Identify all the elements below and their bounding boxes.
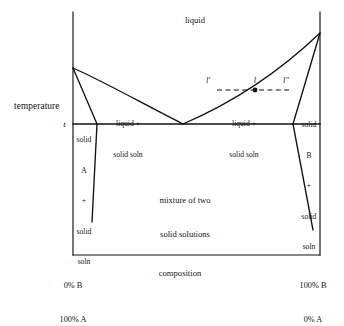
x-axis-right-end-label: 100% B 0% A: [284, 258, 342, 326]
x-axis-left-end-label: 0% B 100% A: [38, 258, 108, 326]
x-left-end-line2: 100% A: [38, 314, 108, 325]
left-solid-line3: +: [71, 196, 97, 206]
x-right-end-line1: 100% B: [284, 280, 342, 291]
region-label-left-liquid-solid: liquid + solid soln: [103, 99, 153, 180]
right-solid-line3: +: [296, 181, 322, 191]
right-liquid-solid-line1: liquid +: [218, 119, 270, 129]
left-solid-line4: solid: [71, 227, 97, 237]
x-left-end-line1: 0% B: [38, 280, 108, 291]
left-liquid-solid-line2: solid soln: [103, 150, 153, 160]
y-axis-tick-label: t: [60, 119, 69, 129]
composition-point-marker: [253, 88, 258, 93]
right-liquid-solid-line2: solid soln: [218, 150, 270, 160]
x-axis-label: composition: [140, 269, 220, 279]
region-label-right-solid: solid B + solid soln: [296, 100, 322, 273]
tie-line-label-left: l′: [203, 76, 213, 86]
tie-line-group: [217, 88, 289, 93]
y-axis-label: temperature: [14, 101, 72, 112]
right-solid-line4: solid: [296, 212, 322, 222]
right-solid-line1: solid: [296, 120, 322, 130]
region-label-mixture: mixture of two solid solutions: [145, 173, 225, 262]
region-label-liquid: liquid: [165, 16, 225, 26]
mixture-line2: solid solutions: [145, 229, 225, 240]
right-solid-line5: soln: [296, 242, 322, 252]
x-right-end-line2: 0% A: [284, 314, 342, 325]
left-liquid-solid-line1: liquid +: [103, 119, 153, 129]
tie-line-label-center: l: [251, 76, 259, 86]
left-solid-line1: solid: [71, 135, 97, 145]
right-solid-line2: B: [296, 151, 322, 161]
mixture-line1: mixture of two: [145, 195, 225, 206]
region-label-right-liquid-solid: liquid + solid soln: [218, 99, 270, 180]
tie-line-label-right: l″: [280, 76, 292, 86]
left-solid-line2: A: [71, 166, 97, 176]
